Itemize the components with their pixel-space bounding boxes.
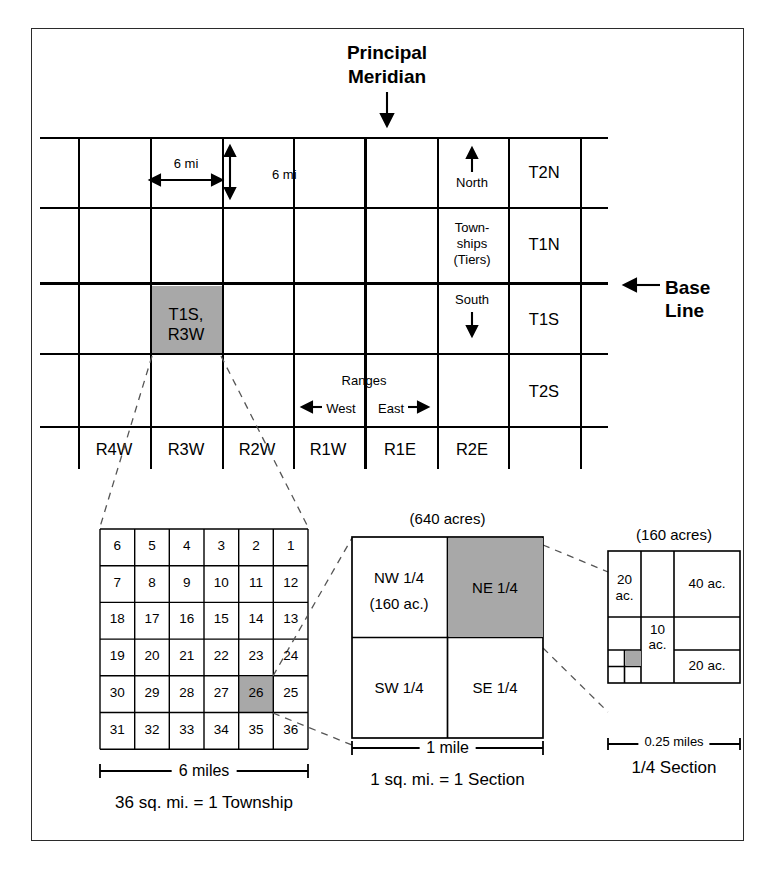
- township-grid-hline-top: [40, 137, 608, 139]
- range-label-r1e: R1E: [384, 440, 416, 458]
- section-cell: 9: [183, 575, 191, 590]
- townships-label-line2: ships: [457, 237, 487, 252]
- quarter-sublabel-nw: (160 ac.): [369, 596, 428, 613]
- parcel-label-10ac-center-line2: ac.: [648, 637, 666, 652]
- highlighted-parcel-cell: [626, 651, 641, 666]
- section-cell: 28: [179, 685, 194, 700]
- base-line-label-line1: Base: [665, 277, 710, 298]
- section-cell: 34: [214, 722, 229, 737]
- section-cell: 8: [148, 575, 156, 590]
- section-cell: 11: [249, 575, 263, 590]
- highlighted-township-label-line2: R3W: [168, 325, 205, 343]
- range-label-r3w: R3W: [168, 440, 205, 458]
- section-cell: 26: [248, 685, 263, 700]
- section-cell: 10: [214, 575, 229, 590]
- section-cell: 32: [144, 722, 159, 737]
- section-cell: 30: [110, 685, 125, 700]
- section-cell: 2: [252, 538, 260, 553]
- quarter-label-nw: NW 1/4: [374, 570, 424, 587]
- township-grid-vline-6: [508, 137, 510, 469]
- principal-meridian-title-line2: Meridian: [348, 66, 426, 87]
- section-grid-scale-label: 6 miles: [172, 762, 237, 780]
- quarter-detail-scale-label: 0.25 miles: [638, 735, 709, 750]
- north-label: North: [456, 176, 488, 191]
- section-cell: 7: [114, 575, 122, 590]
- section-detail-caption: 1 sq. mi. = 1 Section: [370, 770, 525, 789]
- parcel-label-10ac-center-line1: 10: [650, 622, 665, 637]
- township-grid-vline-3: [293, 137, 295, 469]
- section-cell: 22: [214, 648, 229, 663]
- highlighted-township-label-line1: T1S,: [169, 305, 204, 323]
- section-cell: 21: [179, 648, 194, 663]
- diagram-page: Principal Meridian Base Line T1S, R3W 6 …: [0, 0, 774, 869]
- township-grid-hline-3: [40, 353, 608, 355]
- township-grid-hline-1: [40, 207, 608, 209]
- section-cell: 13: [283, 611, 298, 626]
- section-cell: 4: [183, 538, 191, 553]
- principal-meridian-line: [364, 137, 367, 469]
- township-grid-vline-5: [437, 137, 439, 469]
- parcel-label-20ac-southeast: 20 ac.: [689, 658, 726, 673]
- section-cell: 16: [179, 611, 194, 626]
- range-label-r2w: R2W: [239, 440, 276, 458]
- townships-label-line1: Town-: [455, 221, 490, 236]
- parcel-label-40ac-northeast: 40 ac.: [689, 576, 726, 591]
- townships-label-line3: (Tiers): [453, 253, 490, 268]
- range-label-r2e: R2E: [456, 440, 488, 458]
- tier-label-t1n: T1N: [528, 235, 559, 253]
- township-grid-vline-2: [222, 137, 224, 469]
- section-cell: 12: [283, 575, 298, 590]
- section-cell: 24: [283, 648, 298, 663]
- section-cell: 29: [144, 685, 159, 700]
- range-label-r4w: R4W: [96, 440, 133, 458]
- tier-label-t1s: T1S: [529, 310, 559, 328]
- ranges-label: Ranges: [342, 374, 387, 389]
- section-detail-scale-label: 1 mile: [419, 739, 476, 757]
- township-grid-vline-7: [580, 137, 582, 469]
- section-cell: 18: [110, 611, 125, 626]
- township-grid-hline-bottom: [40, 426, 608, 428]
- section-cell: 27: [214, 685, 229, 700]
- section-grid-caption: 36 sq. mi. = 1 Township: [115, 793, 293, 812]
- base-line: [40, 282, 608, 285]
- quarter-label-sw: SW 1/4: [374, 680, 423, 697]
- section-cell: 14: [248, 611, 263, 626]
- principal-meridian-title-line1: Principal: [347, 42, 427, 63]
- township-grid-vline-1: [150, 137, 152, 469]
- quarter-label-ne: NE 1/4: [472, 580, 518, 597]
- quarter-detail-caption: 1/4 Section: [631, 758, 716, 777]
- section-cell: 17: [144, 611, 159, 626]
- diagram-frame: [31, 28, 744, 841]
- section-cell-highlighted: 23: [248, 648, 263, 663]
- section-cell: 6: [114, 538, 122, 553]
- section-cell: 5: [148, 538, 156, 553]
- section-cell: 33: [179, 722, 194, 737]
- range-label-r1w: R1W: [310, 440, 347, 458]
- section-acreage-header: (640 acres): [410, 511, 486, 528]
- south-label: South: [455, 293, 489, 308]
- west-label: West: [326, 402, 355, 417]
- section-cell: 19: [110, 648, 125, 663]
- parcel-label-20ac-west-line2: ac.: [615, 588, 633, 603]
- quarter-label-se: SE 1/4: [472, 680, 517, 697]
- section-cell: 20: [144, 648, 159, 663]
- section-cell: 31: [110, 722, 125, 737]
- tier-label-t2n: T2N: [528, 163, 559, 181]
- tier-label-t2s: T2S: [529, 382, 559, 400]
- section-cell: 1: [287, 538, 295, 553]
- section-cell: 15: [214, 611, 229, 626]
- parcel-label-20ac-west-line1: 20: [617, 572, 632, 587]
- east-label: East: [378, 402, 404, 417]
- township-grid-vline-0: [78, 137, 80, 469]
- base-line-label-line2: Line: [665, 300, 704, 321]
- section-cell: 36: [283, 722, 298, 737]
- quarter-acreage-header: (160 acres): [636, 527, 712, 544]
- section-cell: 3: [218, 538, 226, 553]
- dim-horizontal-label: 6 mi: [174, 157, 199, 172]
- dim-vertical-label: 6 mi: [272, 168, 297, 183]
- section-cell: 25: [283, 685, 298, 700]
- section-cell: 35: [248, 722, 263, 737]
